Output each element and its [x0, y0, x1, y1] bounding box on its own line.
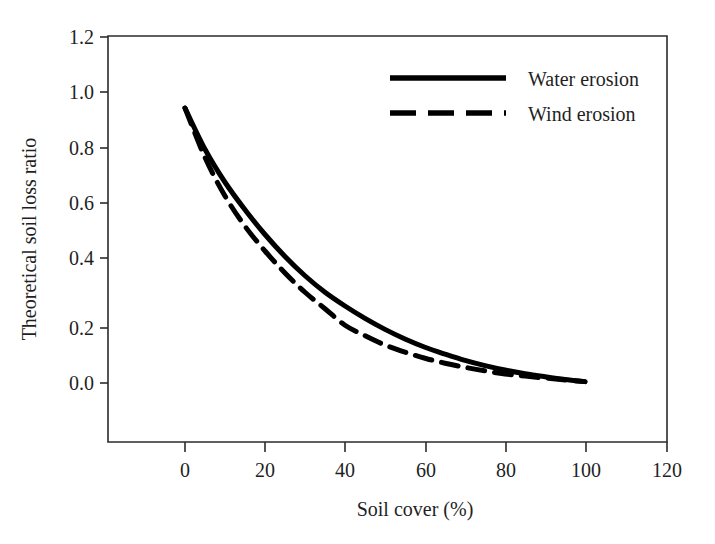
y-tick-label-1-2: 1.2: [69, 26, 94, 48]
y-tick-label-0-6: 0.6: [69, 192, 94, 214]
x-tick-label-100: 100: [571, 459, 601, 481]
y-tick-label-0-2: 0.2: [69, 317, 94, 339]
y-tick-label-0-0: 0.0: [69, 372, 94, 394]
y-axis-tick-labels: 1.2 1.0 0.8 0.6 0.4 0.2 0.0: [69, 26, 94, 394]
y-tick-label-1-0: 1.0: [69, 81, 94, 103]
y-tick-label-0-4: 0.4: [69, 247, 94, 269]
y-axis-title: Theoretical soil loss ratio: [18, 138, 40, 341]
x-tick-label-60: 60: [416, 459, 436, 481]
x-tick-label-40: 40: [335, 459, 355, 481]
soil-loss-ratio-chart: 1.2 1.0 0.8 0.6 0.4 0.2 0.0 0 20 40 60 8…: [0, 0, 715, 544]
legend-label-water-erosion: Water erosion: [528, 68, 639, 90]
y-tick-label-0-8: 0.8: [69, 137, 94, 159]
x-tick-label-20: 20: [255, 459, 275, 481]
legend-label-wind-erosion: Wind erosion: [528, 103, 636, 125]
x-tick-label-80: 80: [496, 459, 516, 481]
figure-container: 1.2 1.0 0.8 0.6 0.4 0.2 0.0 0 20 40 60 8…: [0, 0, 715, 544]
x-tick-label-120: 120: [652, 459, 682, 481]
x-axis-title: Soil cover (%): [357, 498, 474, 521]
x-tick-label-0: 0: [180, 459, 190, 481]
